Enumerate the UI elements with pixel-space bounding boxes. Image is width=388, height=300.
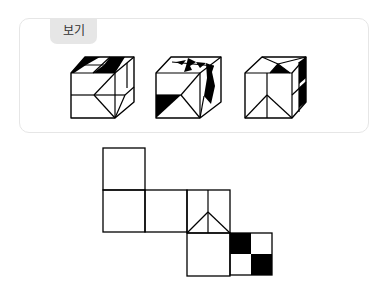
edge-line bbox=[208, 212, 230, 233]
cube-3 bbox=[245, 57, 306, 118]
net-face-2 bbox=[103, 190, 145, 232]
cube-1 bbox=[71, 57, 134, 118]
cube-net bbox=[103, 148, 272, 276]
black-region bbox=[230, 233, 251, 254]
net-face-3 bbox=[145, 190, 187, 232]
black-region bbox=[251, 254, 272, 275]
example-cubes bbox=[0, 0, 388, 300]
net-face-1 bbox=[103, 148, 145, 190]
net-face-5 bbox=[187, 233, 230, 276]
cube-2 bbox=[156, 57, 221, 118]
edge-line bbox=[187, 212, 208, 233]
